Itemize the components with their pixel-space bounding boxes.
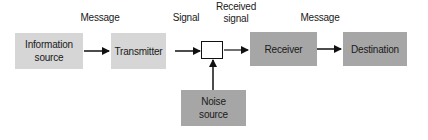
arrows-layer <box>0 0 428 140</box>
